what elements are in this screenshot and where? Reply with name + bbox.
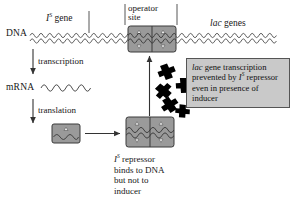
- operator-site-line2: site: [128, 13, 158, 22]
- label-operator-site: operator site: [128, 4, 158, 23]
- caption-line2: binds to DNA: [114, 165, 165, 175]
- caption-line3: but not to: [114, 175, 149, 185]
- label-is-gene: IS gene: [46, 14, 72, 24]
- caption-line4: inducer: [114, 186, 141, 196]
- lac-italic: lac: [210, 18, 222, 28]
- info-box: lac gene transcription prevented by IS r…: [186, 58, 290, 108]
- lac-genes-rest: genes: [222, 18, 246, 28]
- mrna-wave: [41, 85, 91, 91]
- caption-repressor-binding: IS repressor binds to DNA but not to ind…: [114, 154, 206, 196]
- is-gene-suffix: gene: [52, 13, 72, 23]
- bound-repressor-top: [128, 26, 181, 52]
- label-mrna: mRNA: [6, 83, 34, 93]
- repressor-monomer: [52, 124, 80, 143]
- label-lac-genes: lac genes: [210, 19, 246, 29]
- bound-repressor-bottom: [126, 117, 174, 147]
- label-dna: DNA: [6, 29, 27, 39]
- label-transcription: transcription: [38, 57, 84, 66]
- figure-root: IS gene DNA operator site lac genes mRNA…: [0, 0, 296, 199]
- label-translation: translation: [38, 106, 76, 115]
- caption-line1-rest: repressor: [120, 154, 155, 164]
- info-lac-italic: lac: [192, 62, 203, 72]
